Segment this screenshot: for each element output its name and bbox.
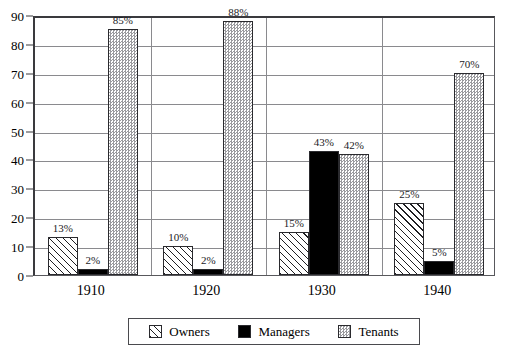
legend-swatch-managers-icon <box>238 325 251 338</box>
chart-legend: OwnersManagersTenants <box>128 318 420 345</box>
category-separator <box>266 18 267 275</box>
bar-value-label: 88% <box>210 7 266 18</box>
gridline <box>35 46 494 47</box>
legend-item-managers[interactable]: Managers <box>238 325 309 338</box>
y-axis-tick-label: 90 <box>11 10 24 23</box>
x-axis-tick-label-1930: 1930 <box>264 284 380 298</box>
legend-label: Tenants <box>358 325 398 338</box>
bar-managers-1940 <box>424 261 454 275</box>
y-axis-tick-mark <box>26 73 33 74</box>
legend-item-tenants[interactable]: Tenants <box>338 325 398 338</box>
y-axis-tick-mark <box>26 160 33 161</box>
legend-label: Owners <box>169 325 209 338</box>
plot-area: 13%2%85%10%2%88%15%43%42%25%5%70% <box>33 16 495 276</box>
legend-swatch-owners-icon <box>149 325 162 338</box>
category-separator <box>382 18 383 275</box>
y-axis-tick-label: 20 <box>11 212 24 225</box>
bar-value-label: 13% <box>35 223 91 234</box>
gridline <box>35 219 494 220</box>
x-axis-tick-label-1910: 1910 <box>33 284 149 298</box>
legend-swatch-tenants-icon <box>338 325 351 338</box>
y-axis-tick-label: 0 <box>18 270 25 283</box>
bar-owners-1940 <box>394 203 424 275</box>
y-axis-tick-mark <box>26 102 33 103</box>
x-axis-tick-label-1940: 1940 <box>380 284 496 298</box>
y-axis: 0102030405060708090 <box>0 0 33 292</box>
y-axis-tick-label: 40 <box>11 154 24 167</box>
y-axis-tick-mark <box>26 131 33 132</box>
bar-tenants-1940 <box>454 73 484 275</box>
y-axis-tick-mark <box>26 189 33 190</box>
bar-tenants-1910 <box>108 29 138 275</box>
bar-value-label: 70% <box>441 59 497 70</box>
x-axis-tick-label-1920: 1920 <box>149 284 265 298</box>
y-axis-tick-mark <box>26 247 33 248</box>
gridline <box>35 104 494 105</box>
bar-value-label: 42% <box>326 140 382 151</box>
gridline <box>35 161 494 162</box>
legend-label: Managers <box>258 325 309 338</box>
bar-tenants-1920 <box>223 21 253 275</box>
bar-tenants-1930 <box>339 154 369 275</box>
bar-value-label: 10% <box>150 232 206 243</box>
y-axis-tick-label: 50 <box>11 125 24 138</box>
bar-value-label: 85% <box>95 15 151 26</box>
y-axis-tick-label: 10 <box>11 241 24 254</box>
y-axis-tick-label: 70 <box>11 67 24 80</box>
y-axis-tick-mark <box>26 44 33 45</box>
bar-managers-1920 <box>193 269 223 275</box>
bar-managers-1930 <box>309 151 339 275</box>
bar-managers-1910 <box>78 269 108 275</box>
y-axis-tick-mark <box>26 218 33 219</box>
gridline <box>35 133 494 134</box>
bar-owners-1930 <box>279 232 309 275</box>
y-axis-tick-label: 80 <box>11 38 24 51</box>
legend-item-owners[interactable]: Owners <box>149 325 209 338</box>
y-axis-tick-label: 30 <box>11 183 24 196</box>
y-axis-tick-mark <box>26 16 33 17</box>
bar-value-label: 25% <box>381 189 437 200</box>
y-axis-tick-label: 60 <box>11 96 24 109</box>
gridline <box>35 75 494 76</box>
y-axis-tick-mark <box>26 276 33 277</box>
